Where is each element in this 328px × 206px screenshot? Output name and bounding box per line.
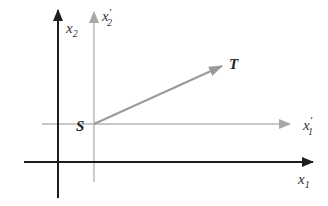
origin-label: S [76,118,84,134]
frames-diagram: x2 x′2 T S x′1 x1 [0,0,328,206]
target-label: T [229,56,239,72]
x2-prime-axis-label: x′2 [101,6,112,28]
x1-prime-axis-label: x′1 [302,114,313,137]
secondary-frame [42,12,290,182]
vector-s-to-t [94,66,222,124]
primary-frame [24,10,313,198]
x2-axis-label: x2 [65,20,78,39]
x1-axis-label: x1 [297,171,310,190]
